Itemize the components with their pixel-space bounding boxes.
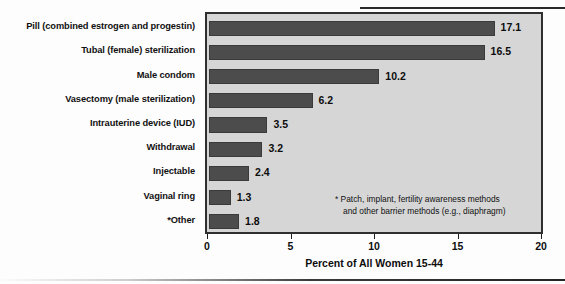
bottom-rule xyxy=(0,279,565,281)
category-label: Vaginal ring xyxy=(0,191,195,201)
bar xyxy=(209,214,239,229)
category-label: Male condom xyxy=(0,70,195,80)
bar xyxy=(209,69,379,84)
bar-value-label: 3.2 xyxy=(268,143,283,154)
category-label: Withdrawal xyxy=(0,142,195,152)
bar xyxy=(209,93,313,108)
bar xyxy=(209,45,485,60)
y-axis-category-labels: Pill (combined estrogen and progestin) T… xyxy=(0,12,200,234)
bar-value-label: 10.2 xyxy=(385,71,405,82)
bar xyxy=(209,117,267,132)
bar xyxy=(209,21,495,36)
bar-value-label: 3.5 xyxy=(273,119,288,130)
bar-value-label: 1.8 xyxy=(245,216,260,227)
category-label: Tubal (female) sterilization xyxy=(0,45,195,55)
bar-value-label: 6.2 xyxy=(319,95,334,106)
category-label: Pill (combined estrogen and progestin) xyxy=(0,21,195,31)
footnote-line: and other barrier methods (e.g., diaphra… xyxy=(335,206,540,218)
bar-value-label: 17.1 xyxy=(501,22,521,33)
x-axis-tick-label: 5 xyxy=(288,240,294,252)
category-label: *Other xyxy=(0,215,195,225)
chart-footnote: * Patch, implant, fertility awareness me… xyxy=(335,194,540,217)
bar xyxy=(209,190,231,205)
x-axis-tick xyxy=(541,234,542,239)
x-axis-tick-label: 15 xyxy=(452,240,464,252)
category-label: Intrauterine device (IUD) xyxy=(0,118,195,128)
bar-value-label: 2.4 xyxy=(255,167,270,178)
x-axis-tick-label: 20 xyxy=(535,240,547,252)
x-axis-tick-label: 10 xyxy=(368,240,380,252)
bar xyxy=(209,142,262,157)
chart-figure: Pill (combined estrogen and progestin) T… xyxy=(0,0,565,284)
plot-area: 17.1 16.5 10.2 6.2 3.5 3.2 2.4 1.3 1.8 *… xyxy=(205,12,543,234)
x-axis-title: Percent of All Women 15-44 xyxy=(205,257,543,269)
x-axis-tick xyxy=(374,234,375,239)
bar-value-label: 1.3 xyxy=(237,192,252,203)
top-rule xyxy=(360,7,565,9)
x-axis-tick-label: 0 xyxy=(204,240,210,252)
x-axis: 05101520 xyxy=(205,234,543,256)
x-axis-tick xyxy=(458,234,459,239)
footnote-line: * Patch, implant, fertility awareness me… xyxy=(335,194,540,206)
bar-value-label: 16.5 xyxy=(491,46,511,57)
bar xyxy=(209,166,249,181)
x-axis-tick xyxy=(291,234,292,239)
category-label: Vasectomy (male sterilization) xyxy=(0,94,195,104)
x-axis-tick xyxy=(207,234,208,239)
category-label: Injectable xyxy=(0,166,195,176)
